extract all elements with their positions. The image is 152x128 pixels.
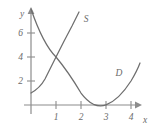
x-tick-label-3: 3 bbox=[103, 112, 109, 122]
supply-curve bbox=[31, 12, 79, 93]
x-axis-arrow-icon bbox=[135, 102, 142, 109]
y-tick-label-4: 4 bbox=[18, 52, 23, 62]
x-tick-label-2: 2 bbox=[79, 112, 84, 122]
y-tick-label-2: 2 bbox=[18, 76, 23, 86]
demand-curve-label: D bbox=[115, 68, 123, 78]
x-tick-label-1: 1 bbox=[54, 112, 59, 122]
x-tick-label-4: 4 bbox=[129, 112, 134, 122]
y-axis-label: y bbox=[19, 9, 25, 19]
y-tick-label-6: 6 bbox=[18, 28, 23, 38]
supply-curve-label: S bbox=[84, 14, 89, 24]
supply-demand-figure: 1 2 3 4 2 4 6 x y S D bbox=[0, 0, 152, 128]
x-axis-label: x bbox=[142, 115, 148, 125]
plot-canvas: 1 2 3 4 2 4 6 x y S D bbox=[0, 0, 152, 128]
